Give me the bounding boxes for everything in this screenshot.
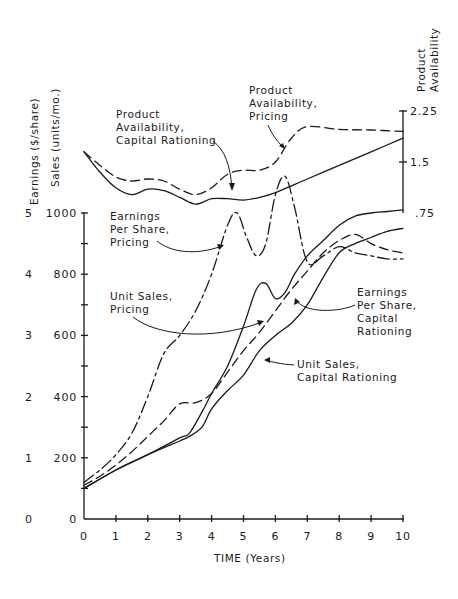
svg-text:Capital Rationing: Capital Rationing (116, 134, 216, 146)
svg-text:Capital Rationing: Capital Rationing (297, 371, 397, 383)
y-tick-earnings-label: 2 (25, 391, 33, 404)
chart-canvas: 00200140026003800410005 012345678910 .75… (0, 0, 458, 599)
annotation-unit-sales-pricing: Unit Sales, Pricing (110, 290, 264, 334)
arrowhead-icon (229, 183, 235, 191)
y-tick-sales-label: 400 (54, 391, 77, 404)
y-axis-label-sales: Sales (units/mo.) (49, 88, 61, 187)
svg-text:Per Share,: Per Share, (110, 223, 170, 235)
x-tick-label: 7 (303, 530, 311, 543)
right-axis-label-product: Product (415, 48, 427, 92)
y-axis-label-earnings: Earnings ($/share) (28, 98, 40, 205)
svg-text:Unit Sales,: Unit Sales, (297, 358, 360, 370)
svg-text:Pricing: Pricing (110, 303, 150, 315)
x-tick-label: 3 (176, 530, 184, 543)
svg-text:Product: Product (249, 84, 293, 96)
x-tick-label: 6 (271, 530, 279, 543)
x-tick-label: 9 (367, 530, 375, 543)
y-tick-earnings-label: 0 (25, 513, 33, 526)
y-tick-right-label: 1.5 (410, 156, 430, 169)
arrowhead-icon (217, 244, 224, 250)
svg-text:Unit Sales,: Unit Sales, (110, 290, 173, 302)
arrowhead-icon (257, 320, 264, 326)
x-tick-label: 4 (208, 530, 216, 543)
svg-text:Per Share,: Per Share, (357, 299, 417, 311)
y-tick-right-label: 2.25 (410, 105, 438, 118)
x-tick-label: 0 (80, 530, 88, 543)
left-axis-ticks: 00200140026003800410005 (25, 207, 88, 526)
x-tick-label: 8 (335, 530, 343, 543)
svg-text:Product: Product (116, 108, 160, 120)
svg-text:Earnings: Earnings (357, 286, 407, 298)
series-unit-sales-pricing (84, 210, 403, 489)
y-tick-sales-label: 600 (54, 329, 77, 342)
x-tick-label: 2 (144, 530, 152, 543)
x-tick-label: 1 (112, 530, 120, 543)
y-tick-right-label: .75 (415, 207, 435, 220)
y-tick-earnings-label: 5 (25, 207, 33, 220)
y-tick-sales-label: 0 (69, 513, 77, 526)
annotation-earnings-per-share-capital-rationing: Earnings Per Share, Capital (294, 286, 417, 324)
x-axis-label: TIME (Years) (213, 552, 286, 564)
annotation-product-availability-capital-rationing: Product Availability, Capital Rationing (116, 108, 235, 191)
y-tick-sales-label: 800 (54, 268, 77, 281)
annotation-earnings-per-share-pricing: Earnings Per Share, Pricing (110, 210, 224, 252)
annotation-earnings-capital-rationing-line4: Rationing (357, 325, 412, 337)
svg-text:Rationing: Rationing (357, 325, 412, 337)
y-tick-earnings-label: 1 (25, 452, 33, 465)
y-tick-earnings-label: 3 (25, 329, 33, 342)
svg-text:Pricing: Pricing (110, 236, 150, 248)
y-tick-sales-label: 200 (54, 452, 77, 465)
arrowhead-icon (264, 357, 270, 363)
axes: 00200140026003800410005 012345678910 .75… (25, 105, 438, 543)
annotation-unit-sales-capital-rationing: Unit Sales, Capital Rationing (264, 357, 397, 383)
svg-text:Capital: Capital (357, 312, 398, 324)
svg-text:Earnings: Earnings (110, 210, 160, 222)
annotation-product-availability-pricing: Product Availability, Pricing (249, 84, 317, 149)
right-axis-label-availability: Availability (428, 28, 440, 92)
svg-text:Availability,: Availability, (116, 121, 184, 133)
y-tick-earnings-label: 4 (25, 268, 33, 281)
x-tick-label: 5 (240, 530, 248, 543)
x-tick-label: 10 (395, 530, 411, 543)
series-product-availability-capital-rationing (84, 138, 403, 204)
svg-text:Pricing: Pricing (249, 110, 289, 122)
right-axis-ticks: .751.52.25 (399, 105, 438, 220)
y-tick-sales-label: 1000 (46, 207, 77, 220)
svg-text:Availability,: Availability, (249, 97, 317, 109)
